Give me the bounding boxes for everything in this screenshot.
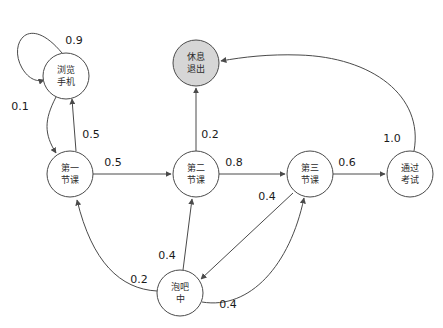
node-label-at-bar-line1: 泡吧 xyxy=(171,281,189,292)
node-label-at-bar-line2: 中 xyxy=(176,293,185,304)
node-label-rest-exit-line2: 退出 xyxy=(187,63,205,74)
node-label-browse-phone-line1: 浏览 xyxy=(57,64,75,75)
edge-path-browse-to-class-one xyxy=(47,97,56,153)
node-label-pass-exam-line1: 通过 xyxy=(401,162,419,173)
node-label-class-two-line1: 第二 xyxy=(187,162,205,173)
node-class-three[interactable]: 第三 节课 xyxy=(287,151,333,197)
edge-weight-browse-phone-to-class-one: 0.1 xyxy=(11,100,29,113)
node-label-class-three-line1: 第三 xyxy=(301,162,319,173)
node-pass-exam[interactable]: 通过 考试 xyxy=(387,151,433,197)
state-diagram-svg: 0.9 0.1 0.5 0.5 0.2 0.8 0. xyxy=(0,0,443,328)
edge-weight-class-two-to-rest-exit: 0.2 xyxy=(201,128,219,141)
edge-class-one-to-class-two: 0.5 xyxy=(93,156,171,174)
node-label-rest-exit-line1: 休息 xyxy=(187,51,205,62)
node-label-browse-phone-line2: 手机 xyxy=(57,76,75,87)
node-class-one[interactable]: 第一 节课 xyxy=(47,151,93,197)
node-rest-exit[interactable]: 休息 退出 xyxy=(173,40,219,86)
node-label-class-one-line2: 节课 xyxy=(61,175,79,185)
edge-class-two-to-rest-exit: 0.2 xyxy=(196,88,219,151)
edge-at-bar-to-class-one: 0.2 xyxy=(77,200,157,291)
node-at-bar[interactable]: 泡吧 中 xyxy=(157,270,203,316)
node-label-class-one-line1: 第一 xyxy=(61,162,79,173)
state-diagram-canvas: 0.9 0.1 0.5 0.5 0.2 0.8 0. xyxy=(0,0,443,328)
edge-weight-class-three-to-at-bar: 0.4 xyxy=(258,190,276,203)
edge-weight-at-bar-to-class-one: 0.2 xyxy=(130,273,148,286)
node-label-class-two-line2: 节课 xyxy=(187,175,205,185)
node-browse-phone[interactable]: 浏览 手机 xyxy=(43,53,89,99)
node-label-class-three-line2: 节课 xyxy=(301,175,319,185)
edge-weight-class-three-to-pass-exam: 0.6 xyxy=(338,156,356,169)
node-label-pass-exam-line2: 考试 xyxy=(401,174,419,185)
edge-at-bar-to-class-two: 0.4 xyxy=(158,199,192,270)
edge-class-two-to-class-three: 0.8 xyxy=(219,156,285,174)
edge-weight-pass-exam-to-rest-exit: 1.0 xyxy=(383,132,401,145)
edge-class-one-to-browse-phone: 0.5 xyxy=(72,99,100,151)
edge-weight-class-one-to-browse-phone: 0.5 xyxy=(82,128,100,141)
edge-class-three-to-at-bar: 0.4 xyxy=(201,190,293,279)
edge-class-three-to-pass-exam: 0.6 xyxy=(333,156,385,174)
edge-at-bar-to-class-three: 0.4 xyxy=(202,198,304,311)
edge-path-class-three-to-at-bar xyxy=(201,193,293,279)
edge-path-class-one-to-browse xyxy=(72,99,76,151)
edge-pass-exam-to-rest-exit: 1.0 xyxy=(221,55,415,151)
edge-weight-browse-phone-self-loop: 0.9 xyxy=(65,34,83,47)
edge-path-at-bar-to-class-three xyxy=(202,198,304,303)
edge-weight-class-one-to-class-two: 0.5 xyxy=(104,156,122,169)
edge-weight-at-bar-to-class-two: 0.4 xyxy=(158,249,176,262)
edge-weight-at-bar-to-class-three: 0.4 xyxy=(219,298,237,311)
edge-path-at-bar-to-class-two xyxy=(183,199,192,270)
edge-browse-phone-to-class-one: 0.1 xyxy=(11,97,56,153)
node-class-two[interactable]: 第二 节课 xyxy=(173,151,219,197)
edge-weight-class-two-to-class-three: 0.8 xyxy=(225,156,243,169)
